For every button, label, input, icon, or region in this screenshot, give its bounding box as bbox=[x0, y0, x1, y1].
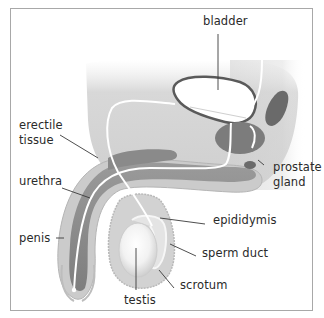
label-erectile-tissue: erectile tissue bbox=[19, 118, 63, 148]
label-urethra: urethra bbox=[19, 174, 62, 189]
label-prostate-gland: prostate gland bbox=[273, 160, 322, 190]
urethra-opening bbox=[72, 288, 76, 292]
anatomy-illustration bbox=[0, 0, 324, 318]
label-penis: penis bbox=[19, 231, 50, 246]
testis-shape bbox=[119, 223, 157, 277]
label-sperm-duct: sperm duct bbox=[202, 246, 268, 261]
label-bladder: bladder bbox=[203, 14, 248, 29]
label-scrotum: scrotum bbox=[180, 278, 228, 293]
label-testis: testis bbox=[124, 293, 156, 308]
label-epididymis: epididymis bbox=[213, 213, 277, 228]
